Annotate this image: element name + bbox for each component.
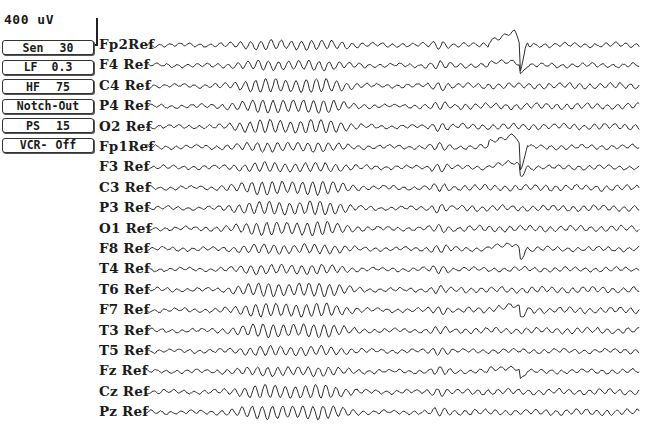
eeg-trace <box>146 221 639 235</box>
eeg-trace <box>146 243 639 259</box>
eeg-trace <box>146 161 639 177</box>
eeg-trace <box>146 366 639 379</box>
eeg-trace <box>146 406 639 420</box>
eeg-trace <box>146 283 639 297</box>
eeg-trace <box>146 119 639 133</box>
eeg-trace <box>146 181 639 195</box>
eeg-trace <box>146 60 639 74</box>
eeg-trace <box>146 303 639 317</box>
eeg-trace <box>146 134 639 170</box>
eeg-trace <box>146 324 639 338</box>
eeg-trace <box>146 264 639 275</box>
eeg-trace <box>146 100 639 113</box>
eeg-trace <box>146 201 639 215</box>
eeg-trace <box>146 385 639 399</box>
eeg-trace <box>146 79 639 93</box>
eeg-trace <box>146 345 639 356</box>
eeg-trace-area <box>0 0 656 436</box>
